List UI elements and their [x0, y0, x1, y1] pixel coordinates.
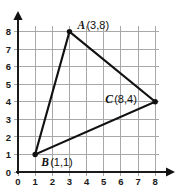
y-tick-label: 7 — [6, 44, 11, 55]
x-axis-tick-labels: 012345678 — [15, 176, 157, 187]
point-coords-a: (3,8) — [86, 19, 109, 31]
point-name-b: B — [40, 156, 49, 168]
y-tick-label: 0 — [6, 167, 11, 178]
y-tick-label: 2 — [6, 132, 11, 143]
triangle-outline — [35, 32, 155, 155]
x-tick-label: 5 — [101, 176, 107, 187]
y-tick-label: 6 — [6, 61, 11, 72]
y-tick-label: 8 — [6, 26, 11, 37]
y-tick-label: 1 — [6, 149, 12, 160]
point-name-a: A — [76, 19, 85, 31]
x-tick-label: 1 — [33, 176, 39, 187]
y-tick-label: 4 — [6, 96, 12, 107]
x-tick-label: 0 — [15, 176, 20, 187]
x-tick-label: 4 — [84, 176, 90, 187]
x-tick-label: 7 — [135, 176, 140, 187]
y-axis-tick-labels: 012345678 — [6, 26, 12, 177]
point-name-c: C — [105, 93, 113, 105]
y-tick-label: 3 — [6, 114, 11, 125]
coordinate-plane-figure: 012345678 012345678 A(3,8)B(1,1)C(8,4) — [0, 0, 180, 194]
point-coords-c: (8,4) — [114, 93, 137, 105]
vertex-point-b — [32, 152, 37, 157]
y-tick-label: 5 — [6, 79, 12, 90]
vertex-point-c — [153, 99, 158, 104]
vertex-point-a — [67, 29, 72, 34]
x-tick-label: 8 — [153, 176, 158, 187]
x-tick-label: 3 — [67, 176, 72, 187]
x-axis-arrowhead — [166, 167, 175, 176]
triangle-coordinate-graph: 012345678 012345678 A(3,8)B(1,1)C(8,4) — [0, 0, 180, 194]
y-axis-arrowhead — [13, 11, 22, 20]
x-tick-label: 2 — [50, 176, 55, 187]
point-coords-b: (1,1) — [50, 156, 73, 168]
axes — [13, 11, 175, 177]
x-tick-label: 6 — [118, 176, 123, 187]
